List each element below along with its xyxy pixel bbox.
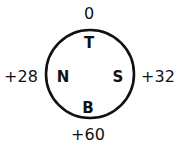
value-bottom: +60 — [71, 127, 105, 143]
direction-label-right: S — [113, 70, 124, 85]
value-right: +32 — [141, 69, 175, 85]
direction-label-bottom: B — [82, 101, 93, 116]
value-left: +28 — [4, 69, 38, 85]
direction-label-left: N — [57, 70, 70, 85]
orientation-diagram: 0 +28 +32 +60 T N S B — [0, 0, 180, 151]
value-top: 0 — [84, 6, 94, 22]
direction-label-top: T — [84, 36, 94, 51]
